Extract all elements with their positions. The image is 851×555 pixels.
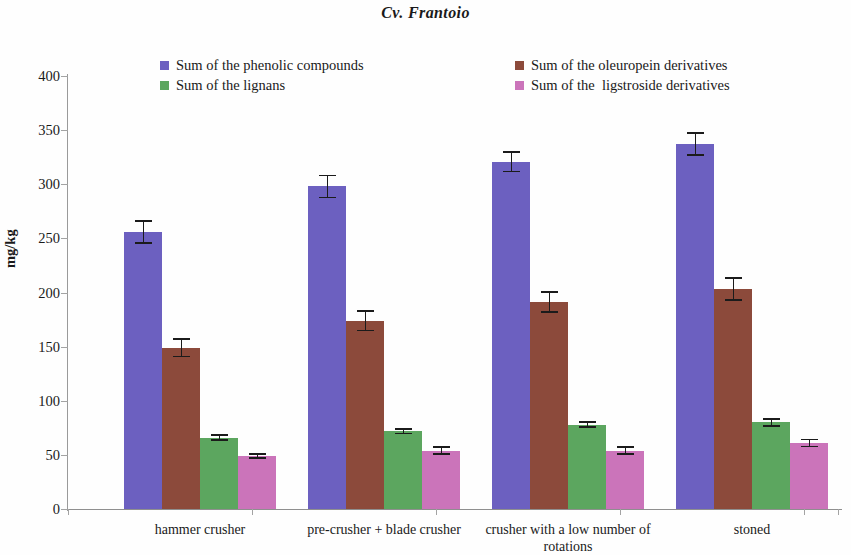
x-axis-tick-label: stoned bbox=[657, 521, 847, 538]
error-bar-cap-top bbox=[319, 175, 336, 177]
bar bbox=[422, 451, 460, 509]
error-bar-cap-top bbox=[541, 291, 558, 293]
y-axis-tick-label: 350 bbox=[16, 123, 60, 138]
x-axis-tick-mark bbox=[252, 509, 253, 515]
legend-item-label: Sum of the oleuropein derivatives bbox=[531, 58, 728, 73]
y-axis-tick-label: 300 bbox=[16, 177, 60, 192]
error-bar-cap-top bbox=[433, 446, 450, 448]
chart-figure: Cv. Frantoio Sum of the phenolic compoun… bbox=[0, 0, 851, 555]
legend-item: Sum of the oleuropein derivatives bbox=[515, 58, 830, 73]
error-bar-cap-top bbox=[249, 453, 266, 455]
y-axis-title: mg/kg bbox=[2, 229, 19, 268]
error-bar-cap-top bbox=[135, 220, 152, 222]
y-axis-tick-mark bbox=[61, 238, 68, 239]
legend-swatch-oleuropein bbox=[515, 61, 524, 70]
x-axis-tick-label: hammer crusher bbox=[105, 521, 295, 538]
bar bbox=[238, 456, 276, 509]
x-axis-tick-label: crusher with a low number of rotations bbox=[473, 521, 663, 555]
y-axis-tick-label: 150 bbox=[16, 339, 60, 354]
y-axis-tick-mark bbox=[61, 455, 68, 456]
error-bar-cap-top bbox=[579, 421, 596, 423]
bar bbox=[308, 186, 346, 509]
x-axis-tick-label: pre-crusher + blade crusher bbox=[289, 521, 479, 538]
bar bbox=[752, 422, 790, 509]
bar bbox=[568, 425, 606, 509]
error-bar-cap-top bbox=[617, 446, 634, 448]
y-axis-tick-label: 400 bbox=[16, 69, 60, 84]
error-bar-cap-top bbox=[725, 277, 742, 279]
y-axis-tick-mark bbox=[61, 509, 68, 510]
x-axis-line bbox=[67, 509, 842, 510]
bar-group bbox=[308, 76, 460, 509]
bar bbox=[492, 162, 530, 509]
legend-swatch-phenolic bbox=[160, 61, 169, 70]
error-bar-cap-top bbox=[357, 310, 374, 312]
bar-group bbox=[492, 76, 644, 509]
y-axis-tick-mark bbox=[61, 347, 68, 348]
error-bar-cap-top bbox=[763, 418, 780, 420]
x-axis-tick-mark bbox=[838, 509, 839, 515]
bar bbox=[714, 289, 752, 509]
legend-item: Sum of the phenolic compounds bbox=[160, 58, 515, 73]
x-axis-tick-mark bbox=[436, 509, 437, 515]
bar bbox=[162, 348, 200, 509]
legend-item-label: Sum of the phenolic compounds bbox=[176, 58, 364, 73]
y-axis-tick-mark bbox=[61, 401, 68, 402]
y-axis-tick-label: 100 bbox=[16, 394, 60, 409]
bar-group bbox=[124, 76, 276, 509]
error-bar-cap-top bbox=[503, 151, 520, 153]
error-bar-cap-top bbox=[395, 428, 412, 430]
plot-area bbox=[68, 76, 838, 509]
page-title: Cv. Frantoio bbox=[0, 4, 851, 22]
y-axis-tick-mark bbox=[61, 184, 68, 185]
bar bbox=[346, 321, 384, 509]
y-axis-tick-mark bbox=[61, 293, 68, 294]
error-bar-cap-top bbox=[173, 338, 190, 340]
error-bar-cap-top bbox=[801, 439, 818, 441]
y-axis-tick-labels: 050100150200250300350400 bbox=[8, 0, 60, 555]
error-bar-cap-top bbox=[211, 434, 228, 436]
x-axis-tick-mark bbox=[68, 509, 69, 515]
y-axis-tick-label: 0 bbox=[16, 502, 60, 517]
x-axis-tick-mark bbox=[620, 509, 621, 515]
bar bbox=[676, 144, 714, 509]
bar bbox=[124, 232, 162, 509]
bar bbox=[200, 438, 238, 509]
y-axis-tick-label: 200 bbox=[16, 285, 60, 300]
bar bbox=[530, 302, 568, 509]
bar bbox=[790, 443, 828, 509]
y-axis-tick-mark bbox=[61, 76, 68, 77]
y-axis-tick-label: 250 bbox=[16, 231, 60, 246]
error-bar-cap-top bbox=[687, 132, 704, 134]
x-axis-tick-mark bbox=[804, 509, 805, 515]
bar-group bbox=[676, 76, 828, 509]
y-axis-tick-mark bbox=[61, 130, 68, 131]
y-axis-tick-label: 50 bbox=[16, 448, 60, 463]
bar bbox=[606, 451, 644, 509]
bar bbox=[384, 431, 422, 509]
